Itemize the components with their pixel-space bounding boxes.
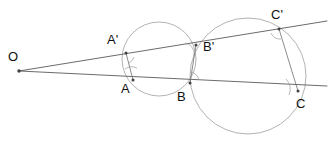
point-label-ap: A' — [107, 33, 118, 46]
point-label-a: A — [121, 82, 130, 95]
point-b-prime — [195, 44, 198, 47]
upper-secant-line-o-a-prime-b-prime-c-prime — [19, 21, 327, 71]
angle-mark-at-c — [286, 79, 290, 95]
geometry-figure: OA'AB'BC'C — [0, 0, 332, 141]
secant-lines-group — [19, 21, 327, 86]
point-label-c: C — [296, 97, 305, 110]
point-b — [189, 82, 192, 85]
circles-group — [122, 18, 306, 134]
angle-mark-at-a — [125, 67, 137, 69]
angle-mark-at-c-prime — [271, 33, 281, 39]
point-a-prime — [125, 52, 128, 55]
point-label-cp: C' — [271, 8, 283, 21]
point-label-b: B — [177, 90, 186, 103]
lower-secant-line-o-a-b-c — [19, 71, 327, 86]
point-a — [132, 79, 135, 82]
point-c-prime — [278, 28, 281, 31]
point-c — [297, 90, 300, 93]
external-point-o — [17, 69, 20, 72]
point-label-bp: B' — [203, 40, 214, 53]
point-label-o: O — [8, 50, 18, 63]
angle-mark-at-a-prime — [129, 57, 134, 63]
circle-through-b-b-prime-c-c-prime — [190, 18, 306, 134]
